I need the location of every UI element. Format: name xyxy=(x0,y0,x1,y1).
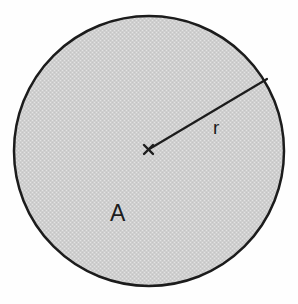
diagram-canvas: r A xyxy=(0,0,298,304)
area-label: A xyxy=(110,200,126,226)
radius-label: r xyxy=(213,117,220,138)
circle-diagram-figure: r A xyxy=(0,0,298,304)
